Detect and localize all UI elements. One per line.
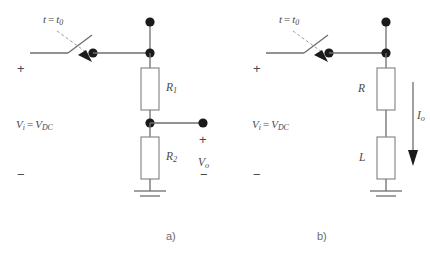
- source-vi-b: V: [252, 118, 259, 130]
- circuit-b-graphics: [266, 17, 418, 196]
- output-plus-sign-a: +: [199, 133, 207, 146]
- source-minus-sign-b: −: [253, 168, 261, 181]
- b-node-top-terminal: [381, 17, 390, 26]
- caption-b: b): [317, 231, 327, 242]
- switch-time-eq-b: =: [282, 13, 292, 25]
- caption-a: a): [166, 231, 176, 242]
- source-eq-b: =: [261, 118, 271, 130]
- b-inductor-l-body: [377, 137, 395, 179]
- circuit-a-graphics: [30, 17, 208, 196]
- output-minus-sign-a: −: [200, 168, 208, 181]
- resistor-r1-label: R1: [166, 82, 177, 95]
- a-switch-dashed-indicator: [57, 31, 86, 52]
- resistor-r2-letter: R: [166, 150, 173, 162]
- source-vdc-sub-b: DC: [278, 123, 289, 132]
- switch-time-eq-a: =: [46, 13, 56, 25]
- resistor-r1-letter: R: [166, 81, 173, 93]
- source-plus-sign-a: +: [17, 62, 25, 75]
- switch-time-label-a: t=t0: [43, 14, 63, 27]
- resistor-r-label: R: [358, 83, 365, 95]
- switch-time-t0-sub-a: 0: [59, 18, 63, 27]
- circuit-drawing: [0, 0, 430, 278]
- source-vdc-b: V: [271, 118, 278, 130]
- source-plus-sign-b: +: [253, 62, 261, 75]
- a-switch-blade: [68, 35, 92, 53]
- b-current-arrowhead: [408, 150, 418, 166]
- source-voltage-label-b: Vi=VDC: [252, 119, 289, 132]
- resistor-r2-sub: 2: [173, 155, 177, 164]
- b-resistor-r-body: [377, 68, 395, 110]
- output-current-label-b: Io: [417, 110, 425, 123]
- circuit-figure: t=t0 + Vi=VDC − R1 R2 + Vo − a) t=t0 + V…: [0, 0, 430, 278]
- output-current-sub: o: [421, 114, 425, 123]
- switch-time-label-b: t=t0: [279, 14, 299, 27]
- source-minus-sign-a: −: [17, 168, 25, 181]
- b-switch-dashed-indicator: [293, 31, 322, 52]
- a-resistor-r2-body: [141, 137, 159, 179]
- a-resistor-r1-body: [141, 68, 159, 110]
- source-vdc-sub-a: DC: [42, 123, 53, 132]
- a-node-top-terminal: [145, 17, 154, 26]
- a-node-output-terminal: [198, 118, 207, 127]
- source-eq-a: =: [25, 118, 35, 130]
- resistor-r2-label: R2: [166, 151, 177, 164]
- source-vi-a: V: [16, 118, 23, 130]
- b-switch-blade: [304, 35, 328, 53]
- switch-time-t0-sub-b: 0: [295, 18, 299, 27]
- inductor-l-label: L: [359, 152, 365, 164]
- source-vdc-a: V: [35, 118, 42, 130]
- resistor-r1-sub: 1: [173, 86, 177, 95]
- source-voltage-label-a: Vi=VDC: [16, 119, 53, 132]
